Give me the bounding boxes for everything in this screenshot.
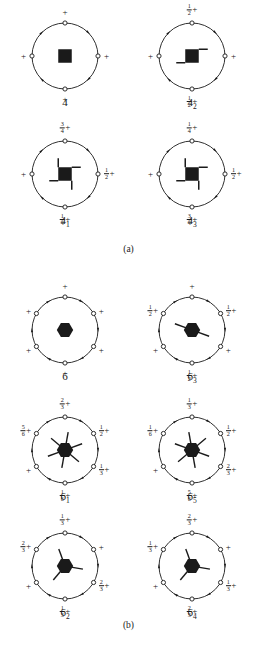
height-label-top: 14+ — [187, 121, 198, 135]
equivalent-point — [190, 87, 194, 91]
diagram-6: ++++++6 — [4, 278, 126, 388]
rotation-arrow — [224, 448, 226, 453]
equivalent-point — [63, 361, 67, 365]
rotation-arrow — [97, 448, 99, 453]
rotation-arrow — [158, 328, 160, 333]
symmetry-symbol-filled-hexagon — [57, 323, 73, 337]
filled-square-glyph — [58, 167, 72, 181]
diagram-caption-6: 6 — [4, 370, 126, 382]
height-label-right: 12+ — [231, 167, 242, 181]
equivalent-point — [161, 547, 165, 551]
equivalent-point — [190, 481, 194, 485]
equivalent-point — [223, 54, 227, 58]
height-sign: + — [104, 52, 109, 61]
height-label-lower-right: 13+ — [99, 463, 110, 477]
height-label-lower-left: + — [153, 345, 158, 354]
diagram-caption-4: 4 — [4, 96, 126, 108]
height-sign: + — [99, 542, 104, 551]
height-label-top: 23+ — [60, 397, 71, 411]
height-fraction: 13 — [99, 463, 104, 477]
equivalent-point — [161, 344, 165, 348]
equivalent-point — [30, 54, 34, 58]
height-sign: + — [65, 516, 70, 525]
height-sign: + — [231, 426, 236, 435]
height-label-lower-left: + — [26, 465, 31, 474]
height-sign: + — [26, 345, 31, 354]
rotation-arrow — [158, 448, 160, 453]
caption-base: 6 — [62, 370, 68, 382]
height-sign: + — [153, 581, 158, 590]
height-label-upper-left: + — [26, 306, 31, 315]
symmetry-symbol-filled-hexagon-two-tails — [184, 323, 200, 337]
height-label-top: 23+ — [187, 513, 198, 527]
section-b: ++++++6 +12++12++12+63 23+12+13+16++56+6… — [0, 272, 257, 646]
caption-subscript: 2 — [193, 102, 197, 111]
height-sign: + — [231, 306, 236, 315]
height-label-lower-right: + — [226, 345, 231, 354]
height-fraction: 12 — [99, 424, 104, 438]
height-sign: + — [231, 465, 236, 474]
symmetry-symbol-filled-square-two-tails — [185, 49, 199, 63]
height-label-right: + — [104, 52, 109, 61]
filled-square-glyph — [185, 167, 199, 181]
equivalent-point — [190, 205, 194, 209]
rotation-arrow — [31, 564, 33, 569]
height-label-upper-left: 13+ — [148, 540, 159, 554]
height-label-upper-left: 16+ — [148, 424, 159, 438]
height-sign: + — [21, 52, 26, 61]
height-fraction: 12 — [226, 304, 231, 318]
height-label-upper-left: 12+ — [148, 304, 159, 318]
equivalent-point — [190, 139, 194, 143]
equivalent-point — [190, 597, 194, 601]
equivalent-point — [161, 580, 165, 584]
height-fraction: 56 — [21, 424, 26, 438]
equivalent-point — [190, 21, 194, 25]
height-label-top: 12+ — [187, 3, 198, 17]
equivalent-point — [218, 344, 222, 348]
caption-subscript: 1 — [66, 220, 70, 229]
height-label-lower-right: 13+ — [226, 579, 237, 593]
height-label-upper-right: 12+ — [226, 424, 237, 438]
rotation-arrow — [79, 419, 84, 422]
equivalent-point — [34, 547, 38, 551]
height-fraction: 23 — [99, 579, 104, 593]
height-sign: + — [99, 345, 104, 354]
height-sign: + — [26, 306, 31, 315]
diagram-caption-6_2: 62 — [4, 606, 126, 621]
diagram-caption-6_5: 65 — [131, 490, 253, 505]
height-label-upper-right: 12+ — [99, 424, 110, 438]
height-sign: + — [226, 542, 231, 551]
height-sign: + — [26, 465, 31, 474]
height-sign: + — [104, 426, 109, 435]
diagram-4: ++++4 — [4, 4, 126, 114]
equivalent-point — [190, 415, 194, 419]
equivalent-point — [190, 361, 194, 365]
filled-hexagon-glyph — [184, 559, 200, 573]
height-fraction: 13 — [60, 513, 65, 527]
height-sign: + — [153, 306, 158, 315]
height-label-lower-left: + — [26, 581, 31, 590]
height-sign: + — [148, 170, 153, 179]
equivalent-point — [218, 431, 222, 435]
diagram-caption-4_1: 41 — [4, 214, 126, 229]
equivalent-point — [161, 311, 165, 315]
height-label-left: + — [148, 170, 153, 179]
height-sign: + — [192, 516, 197, 525]
diagram-caption-6_1: 61 — [4, 490, 126, 505]
caption-subscript: 3 — [193, 220, 197, 229]
height-sign: + — [26, 426, 31, 435]
height-label-top: + — [62, 282, 67, 291]
rotation-arrow — [206, 299, 211, 302]
rotation-arrow — [206, 535, 211, 538]
height-fraction: 23 — [226, 463, 231, 477]
height-fraction: 16 — [148, 424, 153, 438]
rotation-arrow — [47, 477, 52, 480]
symmetry-symbol-filled-hexagon-three-tails-cw — [57, 559, 73, 573]
height-label-upper-right: + — [99, 542, 104, 551]
filled-hexagon-glyph — [57, 323, 73, 337]
section-a: ++++4 12++12++42 34+12+14++41 14+12+34++… — [0, 0, 257, 270]
equivalent-point — [157, 172, 161, 176]
diagram-6-1: 23+12+13+16++56+61 — [4, 398, 126, 508]
rotation-arrow — [47, 593, 52, 596]
caption-subscript: 3 — [193, 376, 197, 385]
